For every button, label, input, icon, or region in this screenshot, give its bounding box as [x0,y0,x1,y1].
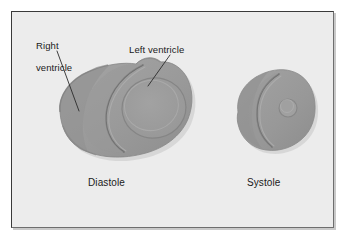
diastole-heart-group [60,58,196,161]
caption-diastole: Diastole [88,177,125,188]
label-right-ventricle-line2: ventricle [36,62,72,73]
systole-heart-group [237,70,318,154]
label-right-ventricle: Right ventricle [25,29,72,84]
label-right-ventricle-line1: Right [36,40,59,51]
label-left-ventricle: Left ventricle [129,44,184,55]
caption-systole: Systole [247,177,281,188]
figure-canvas: Right ventricle Left ventricle Diastole … [0,0,346,241]
